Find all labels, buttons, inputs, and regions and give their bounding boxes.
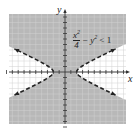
inequality-relation: < 1 [99,35,111,45]
inequality-label: x2 4 − y2 < 1 [73,29,111,50]
inequality-middle: − y [82,35,94,45]
fraction-denominator: 4 [73,40,80,50]
x-axis-label: x [128,74,132,84]
numerator-exponent: 2 [77,29,80,35]
y-axis-arrow-icon [63,9,66,13]
y-axis-label: y [57,5,61,15]
middle-exponent: 2 [94,34,97,40]
hyperbola-inequality-graph [0,0,139,131]
